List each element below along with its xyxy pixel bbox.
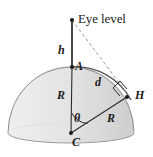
angle-label-theta: θ (74, 112, 80, 124)
radius-label-vertical: R (57, 89, 65, 101)
point-label-h: H (135, 89, 144, 101)
height-label-h: h (58, 44, 65, 56)
point-A (70, 65, 74, 69)
radius-label-slant: R (107, 112, 115, 124)
point-H (125, 95, 129, 99)
point-label-c: C (72, 136, 80, 148)
point-label-a: A (75, 60, 83, 72)
arc-label-d: d (95, 76, 101, 88)
geometry-diagram: Eye level h A d H R R θ C (0, 0, 153, 157)
point-eye (70, 18, 74, 22)
diagram-canvas (0, 0, 153, 157)
eye-level-label: Eye level (78, 12, 126, 25)
